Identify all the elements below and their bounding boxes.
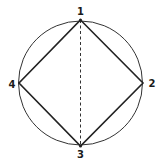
vertex-label-3: 3 (77, 149, 84, 160)
vertex-1-dot (79, 19, 82, 22)
vertex-label-1: 1 (77, 6, 84, 17)
vertex-label-4: 4 (9, 79, 16, 90)
inscribed-square-diagram: 1 2 3 4 (0, 0, 161, 160)
vertex-label-2: 2 (149, 78, 156, 89)
vertex-3-dot (79, 145, 82, 148)
